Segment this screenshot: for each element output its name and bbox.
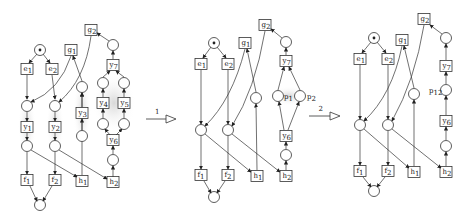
place bbox=[281, 150, 292, 161]
place bbox=[98, 119, 109, 130]
place bbox=[383, 120, 394, 131]
place bbox=[108, 155, 119, 166]
place bbox=[223, 125, 234, 136]
place bbox=[355, 120, 366, 131]
token bbox=[39, 49, 42, 52]
place bbox=[251, 93, 262, 104]
arc bbox=[43, 186, 52, 201]
place bbox=[119, 78, 130, 89]
step-arrow-head bbox=[166, 115, 176, 123]
arc bbox=[377, 42, 386, 53]
arc bbox=[43, 54, 50, 63]
step-label: 2 bbox=[319, 105, 323, 113]
arc bbox=[217, 47, 226, 58]
arc bbox=[31, 56, 71, 102]
arc bbox=[271, 29, 282, 38]
place bbox=[35, 200, 46, 211]
arc bbox=[97, 33, 109, 41]
arc bbox=[73, 56, 82, 81]
place bbox=[50, 101, 61, 112]
place bbox=[98, 78, 109, 89]
arc bbox=[256, 104, 257, 170]
step-label: 1 bbox=[155, 108, 159, 116]
place bbox=[209, 192, 220, 203]
place bbox=[50, 141, 61, 152]
place bbox=[295, 91, 306, 102]
token bbox=[213, 42, 216, 45]
step-arrow-head bbox=[330, 112, 340, 120]
arc bbox=[430, 25, 442, 34]
place bbox=[77, 82, 88, 93]
arc bbox=[217, 181, 225, 193]
arc bbox=[29, 54, 37, 63]
place bbox=[441, 141, 452, 152]
place bbox=[281, 37, 292, 48]
place bbox=[119, 119, 130, 130]
arc bbox=[59, 150, 107, 179]
place bbox=[369, 186, 380, 197]
place bbox=[273, 91, 284, 102]
place-label: p12 bbox=[429, 87, 442, 97]
arc bbox=[288, 102, 299, 130]
place bbox=[22, 101, 33, 112]
place-label: p2 bbox=[307, 93, 316, 103]
place bbox=[441, 33, 452, 44]
place bbox=[77, 131, 88, 142]
arc bbox=[30, 186, 37, 201]
place bbox=[108, 40, 119, 51]
place bbox=[22, 141, 33, 152]
arc bbox=[377, 177, 385, 187]
place bbox=[196, 125, 207, 136]
arc bbox=[204, 181, 211, 193]
place bbox=[409, 89, 420, 100]
arc bbox=[203, 47, 211, 58]
diagram-canvas: e1e2g1g2f1f2h1h2y1y2y3y7y4y5y61e1e2g1g2f… bbox=[0, 0, 470, 219]
arc bbox=[232, 134, 280, 172]
token bbox=[373, 37, 376, 40]
arc bbox=[363, 177, 371, 187]
arc bbox=[362, 42, 371, 53]
arc bbox=[404, 46, 414, 88]
arc bbox=[364, 129, 409, 168]
arc bbox=[392, 129, 441, 168]
petri-net-diagram: e1e2g1g2f1f2h1h2y1y2y3y7y4y5y61e1e2g1g2f… bbox=[0, 0, 470, 219]
arc bbox=[279, 102, 284, 130]
